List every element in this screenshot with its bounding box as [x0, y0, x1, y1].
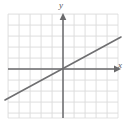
- y-axis-label: y: [59, 1, 63, 10]
- x-axis-label: x: [118, 61, 122, 70]
- coordinate-plane-figure: y x: [0, 0, 128, 127]
- graph-canvas: [0, 0, 128, 127]
